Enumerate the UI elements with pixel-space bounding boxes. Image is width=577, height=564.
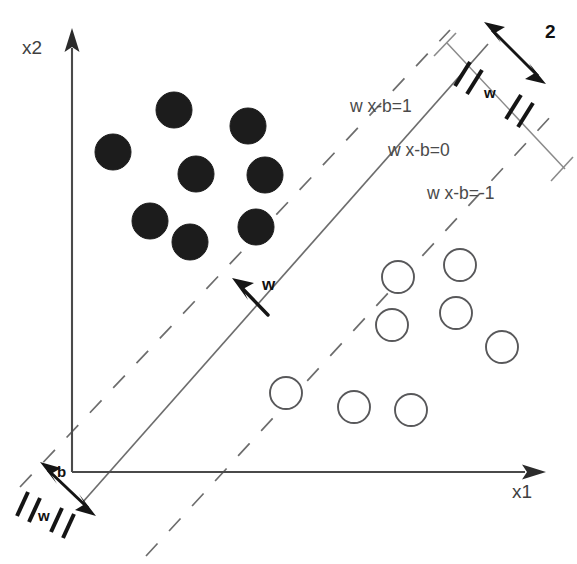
offset-numerator: b [57,463,66,480]
margin-width-denominator-w: w [483,84,496,101]
vertical-axis [65,28,80,472]
data-point-hollow [486,331,518,363]
offset-denominator-w: w [37,507,50,524]
y-axis-label: x2 [22,37,42,58]
svm-margin-diagram: x2 x1 2 w [0,0,577,564]
hollow-point-group [270,249,518,426]
data-point-filled [247,157,283,193]
data-point-hollow [338,391,370,423]
data-point-filled [95,134,131,170]
hyperplane-equation-label: w x-b=0 [387,140,450,160]
data-point-filled [132,203,168,239]
margin-upper-equation-label: w x-b=1 [349,96,412,116]
separating-hyperplane [82,44,488,503]
data-point-hollow [270,377,302,409]
horizontal-axis [72,465,546,480]
data-point-filled [230,108,266,144]
data-point-filled [172,224,208,260]
margin-width-numerator: 2 [545,21,556,42]
margin-lower-equation-label: w x-b=-1 [426,183,495,203]
x-axis-label: x1 [512,481,532,502]
normal-vector-label: w [261,275,276,294]
data-point-hollow [382,261,414,293]
data-point-hollow [440,297,472,329]
diagram-canvas: x2 x1 2 w [0,0,577,564]
data-point-filled [156,92,192,128]
margin-measure-bracket [434,33,573,181]
data-point-hollow [376,309,408,341]
data-point-filled [178,156,214,192]
data-point-hollow [444,249,476,281]
double-arrow-diagonal-icon [484,22,546,84]
arrow-right-icon [522,465,546,480]
data-point-hollow [395,394,427,426]
data-point-filled [238,209,274,245]
filled-point-group [95,92,283,260]
margin-width-annotation: 2 w [455,21,556,127]
